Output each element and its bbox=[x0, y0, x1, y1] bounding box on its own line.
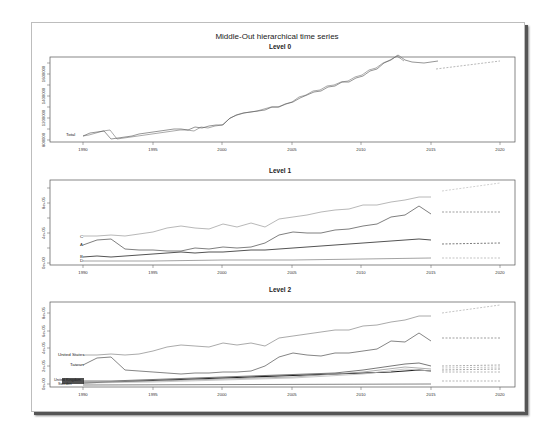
forecast-total bbox=[436, 61, 500, 69]
plot-box bbox=[50, 57, 515, 142]
x-tick: 2010 bbox=[356, 270, 366, 275]
panel-title: Level 1 bbox=[269, 167, 291, 174]
x-tick: 1990 bbox=[78, 392, 88, 397]
x-tick: 2015 bbox=[426, 392, 436, 397]
x-tick: 2005 bbox=[287, 147, 297, 152]
panel-level-1: Level 1 0e+00 4e+05 8e+05 1990 1995 2000… bbox=[41, 167, 515, 275]
y-tick: 1600000 bbox=[41, 65, 46, 82]
panel-title: Level 2 bbox=[269, 286, 291, 293]
series-label: Total bbox=[66, 132, 75, 137]
x-tick: 2010 bbox=[356, 147, 366, 152]
y-tick: 0e+00 bbox=[41, 377, 46, 389]
x-tick: 2005 bbox=[287, 270, 297, 275]
x-tick: 2005 bbox=[287, 392, 297, 397]
series-label: A bbox=[80, 242, 83, 247]
x-tick: 1995 bbox=[148, 392, 158, 397]
x-tick: 2015 bbox=[426, 147, 436, 152]
series-c bbox=[83, 197, 431, 236]
y-tick: 1200000 bbox=[41, 109, 46, 126]
y-tick: 0e+00 bbox=[41, 256, 46, 268]
series-sweden bbox=[83, 384, 431, 385]
y-tick: 6e+05 bbox=[41, 324, 46, 336]
x-tick: 2000 bbox=[217, 147, 227, 152]
y-tick: 8e+05 bbox=[41, 196, 46, 208]
chart-canvas: Middle-Out hierarchical time series Leve… bbox=[0, 0, 555, 423]
series-a bbox=[83, 206, 431, 251]
series-label: Sweden bbox=[58, 382, 72, 386]
series-label: C bbox=[80, 234, 83, 239]
panel-title: Level 0 bbox=[269, 43, 291, 50]
x-tick: 2020 bbox=[495, 270, 505, 275]
panel-level-2: Level 2 0e+00 2e+05 4e+05 6e+05 8e+05 19… bbox=[41, 286, 515, 397]
x-tick: 1995 bbox=[148, 270, 158, 275]
main-title: Middle-Out hierarchical time series bbox=[215, 32, 338, 41]
y-tick: 4e+05 bbox=[41, 341, 46, 353]
plot-box bbox=[50, 180, 515, 265]
y-tick: 2e+05 bbox=[41, 359, 46, 371]
y-tick: 800000 bbox=[41, 132, 46, 147]
series-label: United States bbox=[58, 352, 85, 357]
x-tick: 2000 bbox=[217, 392, 227, 397]
x-tick: 1990 bbox=[78, 270, 88, 275]
x-tick: 1995 bbox=[148, 147, 158, 152]
plot-box bbox=[50, 302, 515, 387]
x-tick: 2010 bbox=[356, 392, 366, 397]
x-tick: 2015 bbox=[426, 270, 436, 275]
series-united-states bbox=[83, 316, 431, 355]
series-b bbox=[83, 239, 431, 257]
series-label: D bbox=[80, 258, 83, 263]
y-tick: 1400000 bbox=[41, 87, 46, 104]
x-tick: 2020 bbox=[495, 392, 505, 397]
series-label: Taiwan bbox=[70, 362, 84, 367]
series-d bbox=[83, 258, 431, 261]
series-total bbox=[83, 55, 438, 139]
y-tick: 4e+05 bbox=[41, 226, 46, 238]
x-tick: 2020 bbox=[495, 147, 505, 152]
y-tick: 8e+05 bbox=[41, 306, 46, 318]
x-tick: 1990 bbox=[78, 147, 88, 152]
x-tick: 2000 bbox=[217, 270, 227, 275]
panel-level-0: Level 0 800000 1200000 1400000 1600000 1… bbox=[41, 43, 515, 152]
